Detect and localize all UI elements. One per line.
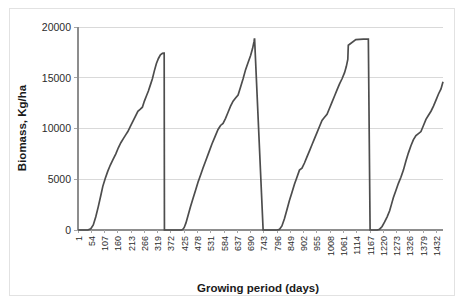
x-tick-label: 1379 bbox=[419, 236, 429, 256]
y-tick-label: 15000 bbox=[42, 72, 71, 84]
x-tick-label: 690 bbox=[246, 236, 256, 251]
gridlines-group bbox=[78, 27, 443, 230]
x-tick-label: 849 bbox=[286, 236, 296, 251]
x-tick-label: 266 bbox=[140, 236, 150, 251]
x-axis-title: Growing period (days) bbox=[197, 282, 319, 294]
x-tick-label: 1326 bbox=[405, 236, 415, 256]
x-tick-label: 531 bbox=[206, 236, 216, 251]
y-axis-title: Biomass, Kg/ha bbox=[16, 84, 28, 171]
x-tick-label: 213 bbox=[127, 236, 137, 251]
biomass-series-line bbox=[78, 39, 443, 230]
x-tick-label: 372 bbox=[166, 236, 176, 251]
y-tick-label: 0 bbox=[65, 224, 71, 236]
y-tick-label: 10000 bbox=[42, 122, 71, 134]
x-tick-label: 902 bbox=[299, 236, 309, 251]
x-tick-label: 160 bbox=[113, 236, 123, 251]
x-tick-label: 1061 bbox=[339, 236, 349, 256]
y-tick-labels-group: 05000100001500020000 bbox=[42, 21, 71, 236]
x-tick-label: 1114 bbox=[352, 236, 362, 255]
y-tick-label: 20000 bbox=[42, 21, 71, 33]
x-tick-label: 319 bbox=[153, 236, 163, 251]
x-tick-label: 1 bbox=[74, 236, 84, 241]
x-tick-label: 743 bbox=[259, 236, 269, 251]
x-tick-label: 1167 bbox=[366, 236, 376, 255]
x-tick-label: 1220 bbox=[379, 236, 389, 256]
x-tick-label: 796 bbox=[273, 236, 283, 251]
chart-canvas: 05000100001500020000 1541071602132663193… bbox=[0, 0, 464, 305]
x-tick-label: 425 bbox=[180, 236, 190, 251]
x-tick-labels-group: 1541071602132663193724254785315846376907… bbox=[74, 236, 442, 256]
x-tick-label: 107 bbox=[100, 236, 110, 251]
biomass-growth-chart: 05000100001500020000 1541071602132663193… bbox=[0, 0, 464, 305]
x-tick-label: 1273 bbox=[392, 236, 402, 256]
y-tick-label: 5000 bbox=[48, 173, 72, 185]
x-tick-label: 955 bbox=[312, 236, 322, 251]
x-tick-label: 584 bbox=[220, 236, 230, 251]
x-tick-label: 478 bbox=[193, 236, 203, 251]
x-tick-label: 1008 bbox=[326, 236, 336, 256]
x-tick-label: 637 bbox=[233, 236, 243, 251]
x-tick-label: 54 bbox=[87, 236, 97, 246]
x-tick-label: 1432 bbox=[432, 236, 442, 256]
